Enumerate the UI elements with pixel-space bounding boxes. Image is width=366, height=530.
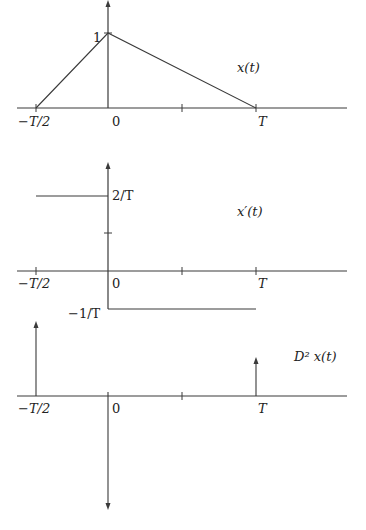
plot-title-d2x: D² x(t) <box>293 349 336 364</box>
xtick-label-0: 0 <box>112 276 120 291</box>
signal-derivatives-diagram: 1 −T/2 0 T x(t) 2/T −1/T −T/2 0 T x′(t) <box>0 0 366 530</box>
xtick-label-t: T <box>258 114 268 129</box>
plot-x-t: 1 −T/2 0 T x(t) <box>17 0 347 129</box>
ytick-label-neg-1-over-t: −1/T <box>68 306 101 321</box>
triangle-signal <box>36 33 256 108</box>
arrow-up-icon <box>34 321 39 328</box>
xtick-label-neg-half-t: −T/2 <box>18 114 50 129</box>
xtick-label-0: 0 <box>112 114 120 129</box>
arrow-up-icon <box>254 357 259 364</box>
xtick-label-0: 0 <box>112 401 120 416</box>
plot-title-x-prime: x′(t) <box>237 204 263 219</box>
xtick-label-t: T <box>258 276 268 291</box>
ytick-label-2-over-t: 2/T <box>112 188 134 203</box>
xtick-label-t: T <box>258 401 268 416</box>
xtick-label-neg-half-t: −T/2 <box>18 401 50 416</box>
plot-title-x: x(t) <box>237 60 260 75</box>
ytick-label-1: 1 <box>93 30 101 45</box>
xtick-label-neg-half-t: −T/2 <box>18 276 50 291</box>
arrow-up-icon <box>106 162 111 169</box>
arrow-up-icon <box>106 0 111 7</box>
plot-d2-x-t: −T/2 0 T D² x(t) <box>17 321 347 510</box>
plot-x-prime-t: 2/T −1/T −T/2 0 T x′(t) <box>17 162 347 321</box>
arrow-down-icon <box>106 503 111 510</box>
